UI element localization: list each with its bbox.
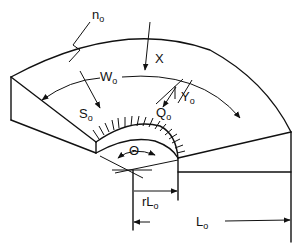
center-line-2 — [100, 156, 143, 178]
w0-arc-left — [42, 78, 100, 100]
label-q0: Qo — [156, 106, 171, 122]
n0-leader — [69, 22, 90, 62]
label-l0: Lo — [196, 215, 208, 231]
label-n0: no — [92, 8, 104, 24]
label-y0: Yo — [181, 90, 195, 106]
label-x: X — [155, 52, 164, 65]
y0-line-1 — [156, 79, 183, 104]
diagram-canvas: no X Wo So Yo Qo Θ rLo Lo — [0, 0, 298, 248]
x-arrow — [145, 22, 150, 70]
right-top-edge — [178, 132, 291, 158]
label-s0: So — [79, 107, 93, 123]
label-theta: Θ — [129, 144, 139, 157]
label-w0: Wo — [100, 70, 117, 86]
label-rl0: rLo — [142, 195, 159, 211]
center-line-1 — [115, 160, 178, 173]
outer-arc — [11, 39, 291, 132]
left-bottom-edge — [11, 120, 96, 153]
s0-arrow — [80, 71, 100, 108]
q0-arrow — [163, 87, 176, 107]
l0-dim-right — [225, 220, 290, 221]
